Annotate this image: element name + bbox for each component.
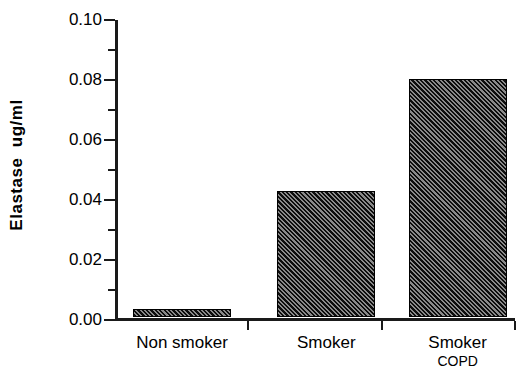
x-axis-tick [247,321,249,330]
y-axis-major-tick [104,319,115,321]
category-label-primary: Non smoker [102,332,262,353]
y-axis-major-tick [104,259,115,261]
category-label-primary: Smoker [378,332,531,353]
plot-area [115,20,515,320]
category-label-secondary: COPD [378,353,531,370]
y-axis-major-tick [104,19,115,21]
y-axis-minor-tick [108,229,115,231]
y-axis-tick-label: 0.04 [46,190,102,210]
y-axis-major-tick [104,139,115,141]
y-axis-minor-tick [108,49,115,51]
x-axis-category-label: SmokerCOPD [378,332,531,370]
y-axis-tick-label: 0.10 [46,10,102,30]
x-axis-line [115,318,515,321]
x-axis-tick [514,321,516,330]
y-axis-tick-labels: 0.100.080.060.040.020.00 [40,0,102,377]
bar [409,79,507,318]
x-axis-category-label: Non smoker [102,332,262,353]
bar [277,191,375,317]
bar [133,309,231,317]
y-axis-tick-label: 0.02 [46,250,102,270]
y-axis-title: Elastase ug/ml [0,0,34,330]
x-axis-category-labels: Non smokerSmokerSmokerCOPD [115,332,515,377]
y-axis-line [115,20,118,321]
y-axis-major-tick [104,79,115,81]
y-axis-tick-label: 0.06 [46,130,102,150]
y-axis-minor-tick [108,109,115,111]
y-axis-major-tick [104,199,115,201]
y-axis-title-text: Elastase ug/ml [7,99,27,230]
x-axis-tick [381,321,383,330]
bar-chart: Elastase ug/ml 0.100.080.060.040.020.00 … [0,0,531,377]
y-axis-tick-label: 0.00 [46,310,102,330]
y-axis-tick-label: 0.08 [46,70,102,90]
y-axis-minor-tick [108,289,115,291]
y-axis-minor-tick [108,169,115,171]
